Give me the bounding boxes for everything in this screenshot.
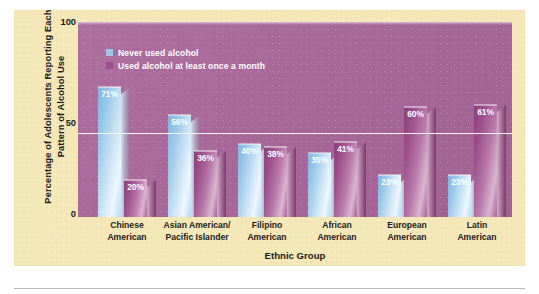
bar-top-cap	[334, 141, 357, 143]
legend-label-used-monthly: Used alcohol at least once a month	[118, 61, 265, 71]
bar-front-face	[168, 115, 191, 217]
bar-top-cap	[378, 174, 401, 176]
y-tick-label-0: 0	[36, 209, 76, 219]
legend-item-never-used: Never used alcohol	[106, 47, 265, 58]
bar-value-label: 23%	[448, 177, 471, 187]
bar-used-alcohol-monthly[interactable]: 38%	[264, 147, 287, 217]
bar-value-label: 56%	[168, 117, 191, 127]
bar-never-used-alcohol[interactable]: 71%	[98, 87, 121, 217]
gridline-50	[78, 133, 512, 135]
bar-value-label: 35%	[308, 155, 331, 165]
bar-group: 35%41%	[308, 22, 366, 217]
bar-top-cap	[264, 146, 287, 148]
bar-value-label: 41%	[334, 144, 357, 154]
bar-used-alcohol-monthly[interactable]: 36%	[194, 151, 217, 217]
bar-side-face	[357, 142, 366, 217]
bar-top-cap	[308, 152, 331, 154]
y-axis-tick-labels: 100 50 0	[30, 10, 76, 266]
bar-never-used-alcohol[interactable]: 40%	[238, 144, 261, 217]
bar-never-used-alcohol[interactable]: 56%	[168, 115, 191, 217]
bar-group: 23%61%	[448, 22, 506, 217]
bar-never-used-alcohol[interactable]: 23%	[448, 175, 471, 217]
x-axis-category-labels: Chinese AmericanAsian American/ Pacific …	[78, 220, 512, 254]
bar-value-label: 20%	[124, 182, 147, 192]
bar-value-label: 36%	[194, 153, 217, 163]
bar-group: 23%60%	[378, 22, 436, 217]
figure-panel: Percentage of Adolescents Reporting Each…	[14, 10, 525, 266]
bar-value-label: 61%	[474, 107, 497, 117]
bar-side-face	[497, 105, 506, 217]
bar-side-face	[147, 180, 156, 217]
bar-side-face	[287, 147, 296, 217]
chart-legend: Never used alcohol Used alcohol at least…	[106, 47, 265, 73]
bar-used-alcohol-monthly[interactable]: 61%	[474, 105, 497, 217]
bar-top-cap	[448, 174, 471, 176]
bar-top-cap	[474, 104, 497, 106]
bar-value-label: 23%	[378, 177, 401, 187]
bar-top-cap	[404, 106, 427, 108]
bar-used-alcohol-monthly[interactable]: 60%	[404, 107, 427, 217]
x-axis-title: Ethnic Group	[78, 250, 512, 261]
bar-value-label: 40%	[238, 146, 261, 156]
bar-front-face	[474, 105, 497, 217]
x-axis-category-label: Latin American	[432, 220, 522, 243]
bar-top-cap	[238, 143, 261, 145]
bar-side-face	[217, 151, 226, 217]
y-tick-label-50: 50	[36, 118, 76, 128]
bar-never-used-alcohol[interactable]: 23%	[378, 175, 401, 217]
bar-value-label: 60%	[404, 109, 427, 119]
bar-top-cap	[124, 179, 147, 181]
bar-top-cap	[98, 86, 121, 88]
legend-label-never-used: Never used alcohol	[118, 48, 199, 58]
bar-value-label: 71%	[98, 89, 121, 99]
bar-top-cap	[194, 150, 217, 152]
legend-swatch-never-used	[106, 49, 113, 56]
legend-item-used-monthly: Used alcohol at least once a month	[106, 60, 265, 71]
bar-side-face	[427, 107, 436, 217]
legend-swatch-used-monthly	[106, 62, 113, 69]
bar-value-label: 38%	[264, 149, 287, 159]
bar-front-face	[404, 107, 427, 217]
bar-used-alcohol-monthly[interactable]: 20%	[124, 180, 147, 217]
plot-area: Never used alcohol Used alcohol at least…	[78, 22, 512, 217]
bar-used-alcohol-monthly[interactable]: 41%	[334, 142, 357, 217]
y-tick-label-100: 100	[36, 17, 76, 27]
bar-front-face	[98, 87, 121, 217]
bar-top-cap	[168, 114, 191, 116]
bar-never-used-alcohol[interactable]: 35%	[308, 153, 331, 217]
bottom-divider-rule	[14, 288, 525, 289]
